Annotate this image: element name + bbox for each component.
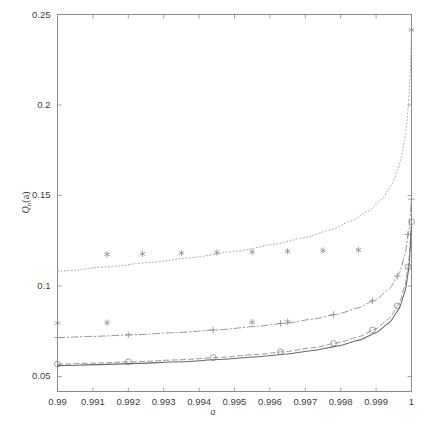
- x-tick-label: 0.99: [38, 397, 78, 407]
- figure-container: Qn(a) a 0.050.10.150.20.250.990.9910.992…: [0, 0, 426, 446]
- y-tick-label: 0.25: [7, 10, 51, 20]
- x-tick-label: 0.997: [285, 397, 325, 407]
- chart-canvas: [0, 0, 426, 446]
- x-tick-label: 0.995: [215, 397, 255, 407]
- y-axis-label-base: Q: [20, 206, 31, 213]
- series-dashed-circle: [55, 219, 415, 367]
- x-tick-label: 1: [392, 397, 426, 407]
- x-tick-label: 0.998: [321, 397, 361, 407]
- y-tick-label: 0.1: [7, 281, 51, 291]
- y-axis-label-subscript: n: [25, 203, 33, 207]
- y-tick-label: 0.15: [7, 190, 51, 200]
- series-dashdot-plus: [54, 196, 415, 341]
- y-tick-label: 0.2: [7, 100, 51, 110]
- x-tick-label: 0.992: [108, 397, 148, 407]
- y-tick-label: 0.05: [7, 371, 51, 381]
- x-tick-label: 0.994: [179, 397, 219, 407]
- series-asterisk-upper: [104, 27, 414, 258]
- axis-ticks: [58, 15, 412, 392]
- x-tick-label: 0.991: [73, 397, 113, 407]
- series-dotted-upper: [58, 30, 412, 271]
- x-tick-label: 0.996: [250, 397, 290, 407]
- x-tick-label: 0.993: [144, 397, 184, 407]
- y-axis-label: Qn(a): [20, 168, 33, 238]
- x-axis-label: a: [0, 406, 426, 417]
- series-asterisk-lower: [55, 319, 291, 327]
- x-tick-label: 0.999: [356, 397, 396, 407]
